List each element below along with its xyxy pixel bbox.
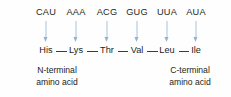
c-terminal-label-line1: C-terminal — [169, 65, 211, 77]
peptide-bond-1 — [56, 51, 67, 52]
codon-row: CAU AAA ACG GUG UUA AUA — [0, 6, 231, 20]
codon-2: AAA — [67, 6, 86, 19]
codon-5: UUA — [157, 6, 177, 19]
n-terminal-label-line2: amino acid — [36, 77, 78, 89]
peptide-bond-5 — [179, 51, 189, 52]
c-terminal-label-line2: amino acid — [169, 77, 211, 89]
arrow-row — [0, 21, 231, 43]
amino-acid-6: Ile — [191, 44, 201, 57]
amino-acid-row: His Lys Thr Val Leu Ile — [0, 44, 231, 58]
codon-3: ACG — [97, 6, 117, 19]
c-terminal-label: C-terminal amino acid — [169, 65, 211, 88]
codon-1: CAU — [36, 6, 56, 19]
peptide-bond-2 — [87, 51, 98, 52]
down-arrow-icon-4 — [134, 21, 141, 42]
codon-4: GUG — [126, 6, 147, 19]
translation-diagram: CAU AAA ACG GUG UUA AUA His Lys Thr Val … — [0, 0, 231, 97]
peptide-bond-3 — [118, 51, 128, 52]
down-arrow-icon-2 — [73, 21, 80, 42]
down-arrow-icon-6 — [193, 21, 200, 42]
amino-acid-5: Leu — [159, 44, 174, 57]
amino-acid-2: Lys — [69, 44, 83, 57]
amino-acid-1: His — [39, 44, 52, 57]
down-arrow-icon-5 — [164, 21, 171, 42]
down-arrow-icon-3 — [104, 21, 111, 42]
amino-acid-4: Val — [131, 44, 144, 57]
n-terminal-label: N-terminal amino acid — [36, 65, 78, 88]
down-arrow-icon-1 — [43, 21, 50, 42]
codon-6: AUA — [186, 6, 205, 19]
amino-acid-3: Thr — [100, 44, 114, 57]
peptide-bond-4 — [147, 51, 158, 52]
n-terminal-label-line1: N-terminal — [36, 65, 78, 77]
